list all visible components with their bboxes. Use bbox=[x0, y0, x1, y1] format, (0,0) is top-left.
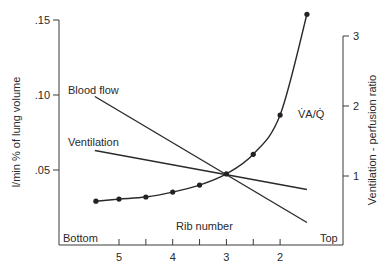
rib-number-label: Rib number bbox=[176, 220, 233, 232]
left-axis-title: l/min % of lung volume bbox=[10, 77, 22, 188]
ventilation-label: Ventilation bbox=[68, 136, 119, 148]
vaq-data-point bbox=[116, 197, 121, 202]
vaq-data-point bbox=[278, 113, 283, 118]
x-ticks: 5432 bbox=[116, 239, 283, 263]
x-tick-label: 2 bbox=[277, 251, 283, 263]
right-tick-label: 3 bbox=[353, 30, 359, 42]
right-axis-title: Ventilation - perfusion ratio bbox=[366, 75, 378, 205]
vaq-data-point bbox=[224, 171, 229, 176]
series-layer bbox=[93, 12, 309, 223]
blood-flow-line bbox=[95, 97, 307, 223]
vaq-label: V̇A/Q̇ bbox=[298, 108, 325, 120]
vaq-data-point bbox=[197, 183, 202, 188]
left-y-ticks: .05.10.15 bbox=[35, 14, 59, 176]
blood-flow-label: Blood flow bbox=[68, 84, 119, 96]
top-label: Top bbox=[320, 232, 338, 244]
x-tick-label: 5 bbox=[116, 251, 122, 263]
right-tick-label: 2 bbox=[353, 100, 359, 112]
x-tick-label: 4 bbox=[170, 251, 176, 263]
bottom-label: Bottom bbox=[63, 232, 98, 244]
ventilation-perfusion-chart: .05.10.15 123 5432 Blood flow Ventilatio… bbox=[0, 0, 390, 273]
right-y-ticks: 123 bbox=[343, 30, 359, 182]
vaq-data-point bbox=[170, 190, 175, 195]
chart-svg: .05.10.15 123 5432 Blood flow Ventilatio… bbox=[0, 0, 390, 273]
left-tick-label: .15 bbox=[35, 14, 50, 26]
left-tick-label: .05 bbox=[35, 164, 50, 176]
vaq-data-point bbox=[251, 152, 256, 157]
x-tick-label: 3 bbox=[223, 251, 229, 263]
left-tick-label: .10 bbox=[35, 89, 50, 101]
vaq-data-point bbox=[143, 194, 148, 199]
vaq-data-point bbox=[304, 12, 309, 17]
vaq-curve bbox=[96, 14, 307, 201]
vaq-data-point bbox=[93, 199, 98, 204]
right-tick-label: 1 bbox=[353, 170, 359, 182]
